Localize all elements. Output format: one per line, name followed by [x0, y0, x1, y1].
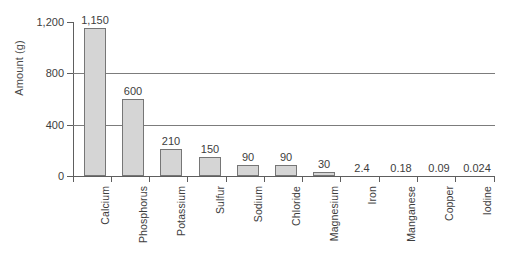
x-category-label-sodium: Sodium — [252, 186, 264, 222]
value-label-calcium: 1,150 — [70, 14, 120, 26]
x-tick-mark-0 — [73, 176, 74, 182]
bar-magnesium — [313, 172, 335, 176]
x-tick-mark-6 — [302, 176, 303, 182]
bar-sodium — [237, 165, 259, 176]
x-tick-mark-10 — [455, 176, 456, 182]
x-tick-mark-7 — [340, 176, 341, 182]
x-tick-mark-11 — [494, 176, 495, 182]
x-tick-mark-5 — [264, 176, 265, 182]
bar-phosphorus — [122, 99, 144, 176]
x-axis-line — [73, 176, 495, 177]
gridline-800 — [73, 73, 495, 74]
x-category-label-manganese: Manganese — [405, 186, 417, 242]
bar-potassium — [160, 149, 182, 176]
x-category-label-sulfur: Sulfur — [214, 186, 226, 214]
y-tick-label-400: 400 — [18, 119, 64, 131]
x-tick-mark-1 — [111, 176, 112, 182]
y-tick-label-1200: 1,200 — [18, 16, 64, 28]
x-category-label-potassium: Potassium — [175, 186, 187, 236]
x-category-label-iron: Iron — [366, 186, 378, 205]
y-tick-label-0: 0 — [18, 170, 64, 182]
bar-chart: Amount (g) 1,200 800 400 0 1,150 600 210… — [0, 0, 506, 263]
x-category-label-iodine: Iodine — [481, 186, 493, 215]
bar-sulfur — [199, 157, 221, 176]
x-tick-mark-9 — [417, 176, 418, 182]
x-tick-mark-3 — [187, 176, 188, 182]
x-category-label-copper: Copper — [443, 186, 455, 221]
x-tick-mark-2 — [149, 176, 150, 182]
x-category-label-chloride: Chloride — [290, 186, 302, 226]
x-category-label-phosphorus: Phosphorus — [137, 186, 149, 243]
x-category-label-magnesium: Magnesium — [328, 186, 340, 241]
y-axis-line — [73, 22, 74, 177]
bar-calcium — [84, 28, 106, 176]
x-tick-mark-4 — [226, 176, 227, 182]
x-tick-mark-8 — [379, 176, 380, 182]
value-label-iodine: 0.024 — [452, 162, 502, 174]
x-category-label-calcium: Calcium — [99, 186, 111, 225]
y-tick-label-800: 800 — [18, 67, 64, 79]
bar-chloride — [275, 165, 297, 176]
value-label-phosphorus: 600 — [108, 85, 158, 97]
